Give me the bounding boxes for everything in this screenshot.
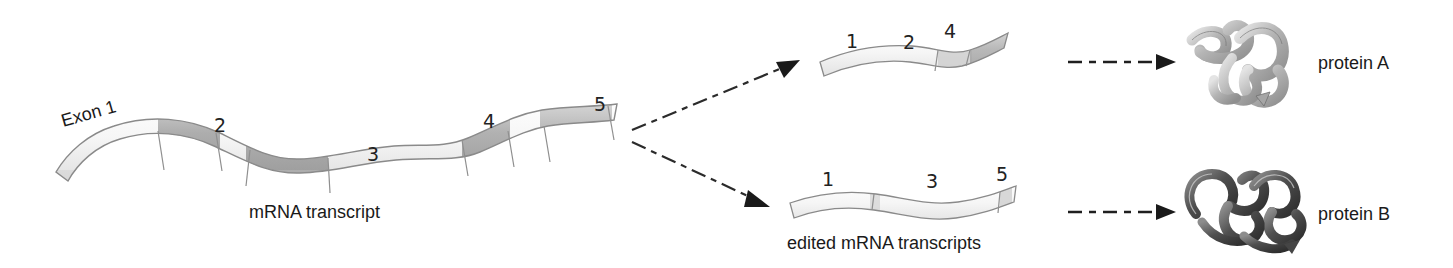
- mrna-splicing-figure: Exon 1 2 3 4 5 mRNA transcript 1 2 4 1 3…: [0, 0, 1453, 268]
- protein-a-label: protein A: [1318, 54, 1389, 72]
- exon-2-label: 2: [214, 116, 226, 135]
- top-transcript-exon-4-label: 4: [944, 22, 956, 41]
- translation-arrow-bottom: [1068, 204, 1176, 220]
- protein-b-ribbon: [1189, 174, 1301, 254]
- bottom-transcript-exon-5-label: 5: [996, 165, 1008, 184]
- top-transcript-exon-1-label: 1: [846, 32, 858, 51]
- exon-3-label: 3: [367, 145, 379, 164]
- protein-b-label: protein B: [1318, 205, 1390, 223]
- primary-mrna-transcript: [50, 95, 630, 193]
- mrna-transcript-caption: mRNA transcript: [249, 203, 380, 221]
- edited-transcript-bottom: [785, 180, 1025, 230]
- branch-arrow-down: [632, 142, 770, 207]
- protein-a-ribbon: [1192, 26, 1283, 106]
- exon-5-label: 5: [594, 95, 606, 114]
- translation-arrow-top: [1068, 54, 1176, 70]
- bottom-transcript-exon-3-label: 3: [926, 172, 938, 191]
- top-transcript-exon-2-label: 2: [903, 33, 915, 52]
- bottom-transcript-exon-1-label: 1: [822, 170, 834, 189]
- exon-4-label: 4: [483, 112, 495, 131]
- branch-arrow-up: [632, 60, 800, 130]
- edited-transcripts-caption: edited mRNA transcripts: [787, 234, 981, 252]
